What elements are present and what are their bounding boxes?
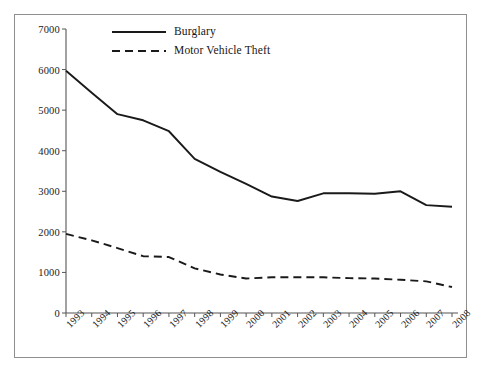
y-axis-tick-label: 4000 xyxy=(18,145,60,156)
y-axis-tick-label: 3000 xyxy=(18,186,60,197)
chart-figure: 01000200030004000500060007000 1993199419… xyxy=(0,0,483,376)
legend-label-motor-vehicle-theft: Motor Vehicle Theft xyxy=(174,44,270,56)
y-axis-tick-label: 5000 xyxy=(18,105,60,116)
chart-series-group xyxy=(66,71,452,287)
y-axis-tick-label: 1000 xyxy=(18,267,60,278)
y-axis-tick-label: 7000 xyxy=(18,24,60,35)
chart-axes xyxy=(62,29,458,317)
legend-label-burglary: Burglary xyxy=(174,25,216,37)
chart-legend-lines xyxy=(112,32,166,51)
y-axis-tick-label: 0 xyxy=(18,308,60,319)
y-axis-tick-label: 2000 xyxy=(18,226,60,237)
y-axis-tick-label: 6000 xyxy=(18,64,60,75)
series-line-burglary xyxy=(66,71,452,207)
series-line-motor-vehicle-theft xyxy=(66,234,452,287)
